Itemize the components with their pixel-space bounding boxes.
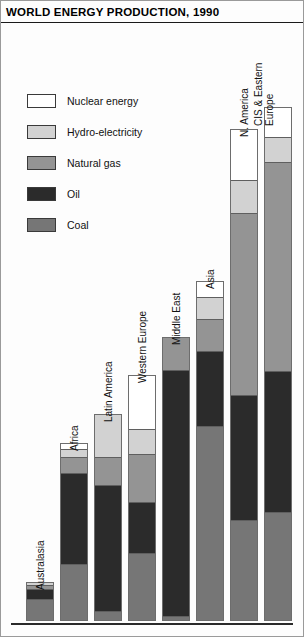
- bar-label-n-america: N. America: [239, 88, 250, 137]
- bar-segment-natural-gas: [265, 163, 291, 372]
- bar-segment-nuclear-energy: [231, 130, 257, 181]
- bar-segment-oil: [197, 352, 223, 428]
- bar-segment-coal: [27, 600, 53, 621]
- bar-western-europe[interactable]: [128, 375, 156, 621]
- bar-segment-oil: [95, 486, 121, 612]
- bar-label-western-europe: Western Europe: [137, 311, 148, 383]
- bar-segment-oil: [27, 590, 53, 600]
- chart-page: WORLD ENERGY PRODUCTION, 1990 Nuclear en…: [0, 0, 304, 637]
- bar-segment-oil: [163, 371, 189, 617]
- bar-segment-oil: [61, 474, 87, 565]
- bar-label-middle-east: Middle East: [171, 293, 182, 345]
- bar-label-australasia: Australasia: [35, 541, 46, 590]
- bar-segment-coal: [61, 565, 87, 621]
- bar-label-cis-eastern-europe: CIS & Eastern Europe: [253, 63, 275, 126]
- bar-segment-nuclear-energy: [129, 376, 155, 430]
- bar-segment-natural-gas: [231, 214, 257, 396]
- bar-segment-natural-gas: [95, 458, 121, 486]
- bar-n-america[interactable]: [230, 129, 258, 621]
- bar-segment-coal: [231, 521, 257, 622]
- bar-segment-natural-gas: [61, 458, 87, 474]
- bar-segment-hydro-electricity: [197, 298, 223, 320]
- bar-segment-hydro-electricity: [265, 138, 291, 163]
- bar-segment-natural-gas: [197, 320, 223, 352]
- chart-baseline-axis: [11, 623, 293, 625]
- bar-segment-hydro-electricity: [129, 430, 155, 455]
- bar-segment-coal: [265, 513, 291, 621]
- bar-segment-hydro-electricity: [61, 450, 87, 458]
- bar-segment-oil: [129, 503, 155, 554]
- bar-label-africa: Africa: [69, 425, 80, 451]
- bar-segment-oil: [231, 396, 257, 520]
- bar-segment-coal: [163, 617, 189, 621]
- bar-cis-eastern-europe[interactable]: [264, 107, 292, 621]
- bar-segment-natural-gas: [129, 455, 155, 503]
- bar-segment-oil: [265, 372, 291, 513]
- bar-segment-hydro-electricity: [231, 181, 257, 215]
- bar-segment-coal: [95, 612, 121, 621]
- bar-asia[interactable]: [196, 281, 224, 621]
- bar-label-asia: Asia: [205, 270, 216, 289]
- bar-segment-coal: [129, 554, 155, 621]
- bar-segment-coal: [197, 427, 223, 621]
- bar-middle-east[interactable]: [162, 337, 190, 621]
- chart-plot-area: AustralasiaAfricaLatin AmericaWestern Eu…: [1, 1, 303, 636]
- bar-africa[interactable]: [60, 443, 88, 621]
- bar-label-latin-america: Latin America: [103, 361, 114, 422]
- bar-latin-america[interactable]: [94, 414, 122, 621]
